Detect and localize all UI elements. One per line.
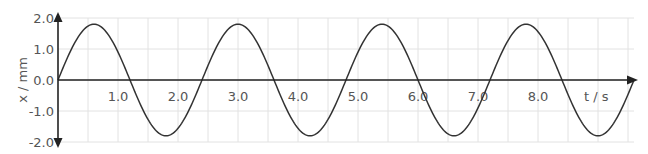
displacement-time-chart: 2.01.00.0-1.0-2.0 1.02.03.04.05.06.07.08… <box>0 0 648 154</box>
x-tick-label: 8.0 <box>528 89 549 104</box>
x-tick-label: 4.0 <box>288 89 309 104</box>
y-tick-labels: 2.01.00.0-1.0-2.0 <box>29 11 54 150</box>
y-axis-up-arrow-icon <box>54 12 63 22</box>
y-tick-label: 0.0 <box>33 73 54 88</box>
y-axis-down-arrow-icon <box>54 138 63 148</box>
y-tick-label: 1.0 <box>33 42 54 57</box>
x-tick-label: 5.0 <box>348 89 369 104</box>
x-tick-label: 3.0 <box>228 89 249 104</box>
x-tick-label: 2.0 <box>168 89 189 104</box>
x-axis-label: t / s <box>584 89 609 104</box>
y-axis-label: x / mm <box>15 57 30 103</box>
y-tick-label: -2.0 <box>29 135 54 150</box>
x-tick-label: 1.0 <box>108 89 129 104</box>
y-tick-label: 2.0 <box>33 11 54 26</box>
y-tick-label: -1.0 <box>29 104 54 119</box>
